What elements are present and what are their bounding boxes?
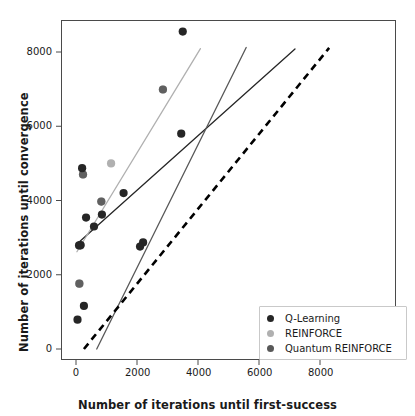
legend-marker-icon: [267, 345, 274, 352]
x-tick-label: 4000: [186, 367, 210, 378]
legend-item-q-learning[interactable]: Q-Learning: [267, 311, 400, 326]
data-point-q-learning: [75, 241, 83, 249]
data-point-q-learning: [73, 316, 81, 324]
x-tick-label: 2000: [125, 367, 149, 378]
data-point-q-learning: [98, 211, 106, 219]
y-axis-title: Number of iterations until convergence: [17, 92, 31, 352]
y-tick-label: 8000: [10, 46, 52, 57]
data-point-quantum-reinforce: [159, 85, 167, 93]
data-point-q-learning: [80, 302, 88, 310]
data-point-q-learning: [136, 242, 144, 250]
legend-item-quantum-reinforce[interactable]: Quantum REINFORCE: [267, 341, 400, 356]
y-axis-ticks: [56, 52, 61, 349]
legend-label: REINFORCE: [285, 329, 342, 339]
data-point-reinforce: [107, 159, 115, 167]
scatter-plot-figure: 0200040006000800002000400060008000 Numbe…: [0, 0, 415, 416]
data-point-q-learning: [82, 213, 90, 221]
data-point-q-learning: [119, 189, 127, 197]
data-point-q-learning: [90, 222, 98, 230]
data-point-q-learning: [179, 27, 187, 35]
x-axis-ticks: [76, 360, 320, 365]
legend-marker-icon: [267, 330, 274, 337]
data-point-q-learning: [177, 130, 185, 138]
legend-item-reinforce[interactable]: REINFORCE: [267, 326, 400, 341]
data-point-q-learning: [78, 164, 86, 172]
legend-box[interactable]: Q-LearningREINFORCEQuantum REINFORCE: [259, 306, 407, 360]
legend-label: Quantum REINFORCE: [285, 344, 392, 354]
x-tick-label: 8000: [308, 367, 332, 378]
data-point-quantum-reinforce: [97, 198, 105, 206]
x-axis-title: Number of iterations until first-success: [0, 398, 415, 412]
x-tick-label: 6000: [247, 367, 271, 378]
x-tick-label: 0: [64, 367, 88, 378]
data-point-quantum-reinforce: [75, 280, 83, 288]
legend-label: Q-Learning: [285, 314, 340, 324]
legend-marker-icon: [267, 315, 274, 322]
